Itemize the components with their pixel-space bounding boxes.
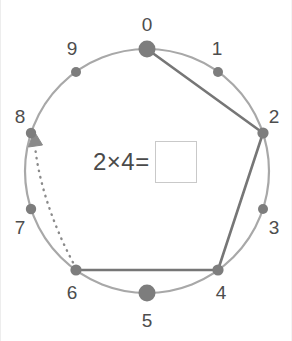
node-dot-9[interactable] [71, 67, 81, 77]
node-dot-3[interactable] [258, 204, 268, 214]
number-circle-figure: 0 1 2 3 4 5 6 7 8 9 2×4= [0, 0, 292, 341]
node-label-1: 1 [212, 39, 223, 58]
node-label-4: 4 [216, 283, 227, 302]
node-dot-5[interactable] [139, 285, 156, 302]
node-label-0: 0 [142, 15, 153, 34]
node-label-5: 5 [142, 311, 153, 330]
node-dot-1[interactable] [213, 67, 223, 77]
chord-0-to-2 [147, 49, 263, 133]
node-dot-7[interactable] [26, 204, 36, 214]
jump-arrow-path [35, 146, 76, 268]
node-label-8: 8 [15, 107, 26, 126]
answer-input-box[interactable] [155, 141, 197, 183]
node-label-2: 2 [269, 107, 280, 126]
node-label-3: 3 [269, 218, 280, 237]
equation-expression: 2×4= [93, 150, 150, 174]
node-dot-4[interactable] [212, 264, 223, 275]
equation-group: 2×4= [93, 141, 197, 183]
node-dot-8[interactable] [26, 128, 36, 138]
node-dot-0[interactable] [139, 41, 156, 58]
node-dot-2[interactable] [257, 127, 268, 138]
node-label-6: 6 [67, 283, 78, 302]
node-dot-6[interactable] [70, 264, 81, 275]
node-label-7: 7 [15, 218, 26, 237]
node-label-9: 9 [67, 39, 78, 58]
